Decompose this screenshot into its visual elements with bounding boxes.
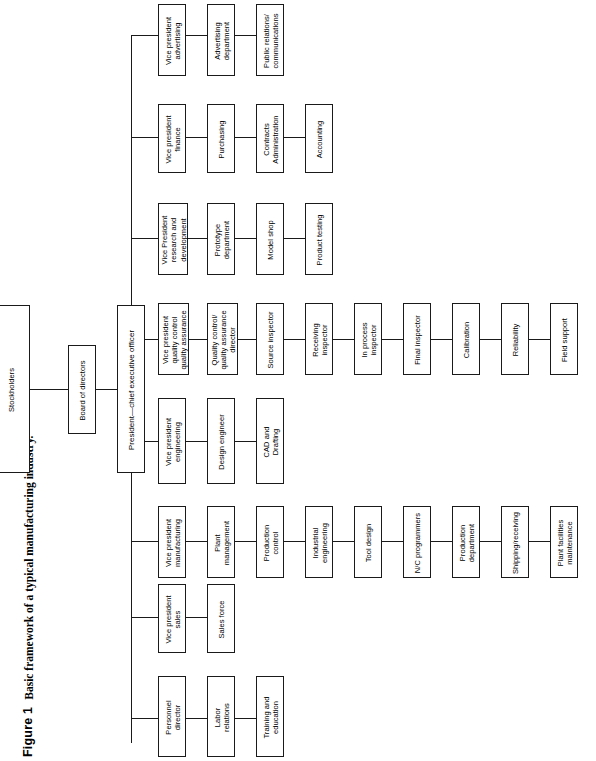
node-advertising-department-label: Advertising department	[208, 5, 236, 77]
org-chart: Stockholders Board of directors Presiden…	[0, 0, 596, 761]
edge-model-shop-product-testing	[284, 238, 305, 239]
node-design-engineer: Design engineer	[207, 398, 235, 484]
node-public-relations: Public relations/ communications	[256, 4, 284, 76]
edge-vp-manufacturing-plant-management	[186, 541, 207, 542]
edge-president-vp-advertising	[131, 35, 158, 36]
node-vp-sales: Vice president sales	[158, 584, 186, 653]
node-production-department-label: Production department	[453, 507, 481, 579]
node-stockholders: Stockholders	[0, 305, 30, 473]
node-receiving-inspector: Receiving inspector	[305, 303, 333, 375]
node-president-label: President—chief executive officer	[118, 306, 146, 474]
edge-plant-management-production-control	[235, 541, 256, 542]
edge-board-president	[96, 389, 117, 390]
edge-calibration-reliability	[480, 339, 501, 340]
node-labor-relations-label: Labor relations	[208, 677, 236, 758]
edge-source-inspector-receiving-inspector	[284, 339, 305, 340]
edge-prototype-department-model-shop	[235, 238, 256, 239]
node-plant-facilities-maintenance: Plant facilities maintenance	[550, 506, 578, 578]
node-advertising-department: Advertising department	[207, 4, 235, 76]
figure-title: Basic framework of a typical manufacturi…	[23, 436, 36, 700]
node-vp-quality-control-label: Vice president quality control quality a…	[159, 304, 190, 376]
node-production-department: Production department	[452, 506, 480, 578]
edge-vp-finance-purchasing	[186, 137, 207, 138]
edge-in-process-inspector-final-inspector	[382, 339, 403, 340]
node-vp-advertising: Vice president advertising	[158, 4, 186, 76]
node-prototype-department-label: Prototype department	[208, 204, 236, 276]
edge-purchasing-contracts-administration	[235, 137, 256, 138]
node-receiving-inspector-label: Receiving inspector	[306, 304, 334, 376]
node-vp-research-development-label: Vice President research and development	[159, 204, 189, 276]
edge-production-department-shipping-receiving	[480, 541, 501, 542]
node-president: President—chief executive officer	[117, 305, 145, 473]
node-accounting: Accounting	[305, 104, 333, 173]
edge-vp-sales-sales-force	[186, 617, 207, 618]
edge-receiving-inspector-in-process-inspector	[333, 339, 354, 340]
edge-vp-engineering-design-engineer	[186, 441, 207, 442]
edge-labor-relations-training-education	[235, 718, 256, 719]
edge-shipping-receiving-plant-facilities	[529, 541, 550, 542]
node-product-testing-label: Product testing	[306, 204, 334, 276]
edge-design-engineer-cad-drafting	[235, 441, 256, 442]
edge-reliability-field-support	[529, 339, 550, 340]
node-final-inspector: Final inspector	[403, 303, 431, 375]
node-design-engineer-label: Design engineer	[208, 399, 236, 485]
node-production-control: Production control	[256, 506, 284, 578]
node-contracts-administration-label: Contracts Administration	[257, 105, 285, 174]
node-reliability: Reliability	[501, 303, 529, 375]
edge-nc-programmers-production-department	[431, 541, 452, 542]
node-nc-programmers-label: N/C programmers	[404, 507, 432, 579]
node-stockholders-label: Stockholders	[0, 306, 31, 474]
node-model-shop: Model shop	[256, 203, 284, 275]
node-shipping-receiving-label: Shipping/receiving	[502, 507, 530, 579]
edge-production-control-industrial-engineering	[284, 541, 305, 542]
node-board-of-directors: Board of directors	[68, 345, 96, 434]
node-vp-finance: Vice president finance	[158, 104, 186, 173]
node-vp-research-development: Vice President research and development	[158, 203, 188, 275]
edge-vp-advertising-advertising-department	[186, 35, 207, 36]
node-public-relations-label: Public relations/ communications	[257, 5, 285, 77]
node-labor-relations: Labor relations	[207, 676, 235, 757]
node-tool-design-label: Tool design	[355, 507, 383, 579]
node-training-education: Training and education	[256, 676, 284, 757]
node-industrial-engineering-label: Industrial engineering	[306, 507, 334, 579]
node-shipping-receiving: Shipping/receiving	[501, 506, 529, 578]
edge-president-vp-finance	[131, 137, 158, 138]
node-industrial-engineering: Industrial engineering	[305, 506, 333, 578]
node-final-inspector-label: Final inspector	[404, 304, 432, 376]
node-board-of-directors-label: Board of directors	[69, 346, 97, 435]
node-training-education-label: Training and education	[257, 677, 285, 758]
node-sales-force: Sales force	[207, 584, 235, 653]
figure-number: Figure 1	[21, 707, 36, 757]
edge-president-vp-rnd	[131, 238, 158, 239]
node-vp-sales-label: Vice president sales	[159, 585, 187, 654]
node-vp-advertising-label: Vice president advertising	[159, 5, 187, 77]
node-vp-finance-label: Vice president finance	[159, 105, 187, 174]
edge-president-personnel-director	[131, 718, 158, 719]
node-vp-manufacturing: Vice president manufacturing	[158, 506, 186, 578]
node-personnel-director: Personnel director	[158, 676, 186, 757]
node-vp-engineering-label: Vice president engineering	[159, 399, 187, 485]
node-purchasing-label: Purchasing	[208, 105, 236, 174]
edge-vp-qc-qc-director	[189, 339, 207, 340]
node-plant-management-label: Plant management	[208, 507, 236, 579]
edge-qc-director-source-inspector	[238, 339, 256, 340]
node-cad-drafting: CAD and Drafting	[256, 398, 284, 484]
edge-personnel-director-labor-relations	[186, 718, 207, 719]
edge-industrial-engineering-tool-design	[333, 541, 354, 542]
node-accounting-label: Accounting	[306, 105, 334, 174]
node-in-process-inspector: In process inspector	[354, 303, 382, 375]
node-model-shop-label: Model shop	[257, 204, 285, 276]
node-sales-force-label: Sales force	[208, 585, 236, 654]
node-source-inspector: Source inspector	[256, 303, 284, 375]
node-contracts-administration: Contracts Administration	[256, 104, 284, 173]
node-product-testing: Product testing	[305, 203, 333, 275]
node-in-process-inspector-label: In process inspector	[355, 304, 383, 376]
edge-vp-rnd-prototype-department	[188, 238, 207, 239]
node-vp-quality-control: Vice president quality control quality a…	[158, 303, 189, 375]
node-source-inspector-label: Source inspector	[257, 304, 285, 376]
edge-president-vp-sales	[131, 617, 158, 618]
node-prototype-department: Prototype department	[207, 203, 235, 275]
node-purchasing: Purchasing	[207, 104, 235, 173]
edge-president-vp-manufacturing	[131, 541, 158, 542]
node-qc-director: Quality control/ quality assurance direc…	[207, 303, 238, 375]
